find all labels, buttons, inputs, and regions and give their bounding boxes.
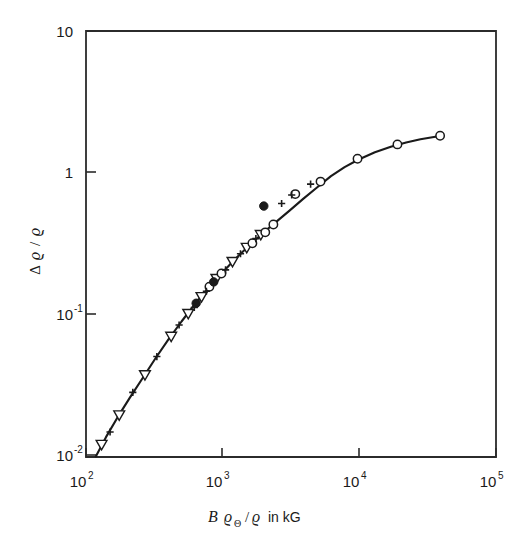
log-log-chart: 10 1 10 -1 10 -2 10 2 10 3 10 4 10 5 Δ ϱ… xyxy=(0,0,532,552)
open-circle-marker xyxy=(316,177,324,185)
open-circle-marker xyxy=(393,140,401,148)
x-tick-label-1e2-exp: 2 xyxy=(88,470,94,481)
y-tick-label-1e-1-exp: -1 xyxy=(74,303,83,314)
x-tick-label-1e2-base: 10 xyxy=(70,473,87,490)
y-axis-title-rho: ϱ xyxy=(26,252,44,260)
open-circle-marker xyxy=(436,132,444,140)
filled-circle-marker xyxy=(210,278,218,286)
x-tick-label-1e4-base: 10 xyxy=(343,473,360,490)
x-tick-label-1e4-exp: 4 xyxy=(361,470,367,481)
y-tick-label-1e-2-base: 10 xyxy=(56,447,73,464)
x-axis-title-b: B xyxy=(208,508,218,525)
x-tick-label-1e5-exp: 5 xyxy=(498,470,504,481)
y-tick-label-1e-1-base: 10 xyxy=(56,306,73,323)
y-axis-title-rho2: ϱ xyxy=(26,228,44,236)
open-circle-marker xyxy=(353,155,361,163)
figure-container: 10 1 10 -1 10 -2 10 2 10 3 10 4 10 5 Δ ϱ… xyxy=(0,0,532,552)
x-tick-label-1e3-base: 10 xyxy=(206,473,223,490)
x-axis-title-rho2: ϱ xyxy=(252,508,260,526)
x-axis-title-theta-subscript: Θ xyxy=(234,518,241,529)
x-tick-label-1e3-exp: 3 xyxy=(224,470,230,481)
chart-background xyxy=(0,0,532,552)
x-axis-title-units: in kG xyxy=(268,509,301,525)
y-axis-title-delta: Δ xyxy=(27,265,43,275)
x-axis-title-rho: ϱ xyxy=(224,508,232,526)
open-circle-marker xyxy=(261,228,269,236)
open-circle-marker xyxy=(269,220,277,228)
y-tick-label-1: 1 xyxy=(65,164,73,181)
y-tick-label-1e-2-exp: -2 xyxy=(74,444,83,455)
filled-circle-marker xyxy=(192,299,200,307)
filled-circle-marker xyxy=(260,202,268,210)
x-tick-label-1e5-base: 10 xyxy=(480,473,497,490)
y-tick-label-10: 10 xyxy=(56,23,73,40)
